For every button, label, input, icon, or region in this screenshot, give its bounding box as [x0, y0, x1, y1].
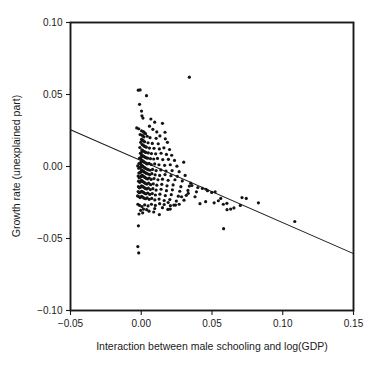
data-point	[186, 189, 189, 192]
data-point	[160, 183, 163, 186]
data-point	[169, 204, 172, 207]
data-point	[293, 220, 296, 223]
x-tick-label: 0.00	[132, 318, 152, 329]
data-point	[170, 193, 173, 196]
data-point	[161, 206, 164, 209]
data-point	[142, 135, 145, 138]
data-point	[225, 202, 228, 205]
data-point	[180, 195, 183, 198]
data-point	[155, 137, 158, 140]
data-point	[175, 199, 178, 202]
data-point	[137, 127, 140, 130]
data-point	[182, 161, 185, 164]
data-point	[137, 224, 140, 227]
data-point	[195, 190, 198, 193]
data-point	[158, 147, 161, 150]
data-point	[145, 94, 148, 97]
data-point	[167, 158, 170, 161]
data-point	[173, 178, 176, 181]
data-point	[147, 210, 150, 213]
data-point	[152, 182, 155, 185]
data-point	[150, 152, 153, 155]
data-point	[137, 174, 140, 177]
data-point	[155, 130, 158, 133]
data-point	[146, 204, 149, 207]
data-point	[217, 199, 220, 202]
y-tick-label: 0.05	[43, 89, 63, 100]
data-point	[141, 211, 144, 214]
data-point	[157, 163, 160, 166]
data-point	[152, 157, 155, 160]
data-point	[163, 164, 166, 167]
data-point	[157, 197, 160, 200]
data-point	[137, 212, 140, 215]
data-point	[151, 142, 154, 145]
data-point	[168, 198, 171, 201]
data-point	[143, 203, 146, 206]
data-point	[158, 174, 161, 177]
data-point	[154, 152, 157, 155]
data-point	[184, 174, 187, 177]
data-point	[164, 137, 167, 140]
data-point	[151, 168, 154, 171]
data-point	[149, 117, 152, 120]
data-point	[155, 189, 158, 192]
data-point	[153, 207, 156, 210]
y-tick-label: −0.10	[37, 305, 63, 316]
data-point	[165, 184, 168, 187]
data-point	[145, 146, 148, 149]
data-point	[150, 178, 153, 181]
data-point	[232, 206, 235, 209]
data-point	[161, 122, 164, 125]
x-tick-label: −0.05	[58, 318, 84, 329]
data-point	[150, 197, 153, 200]
data-point	[137, 185, 140, 188]
data-point	[181, 179, 184, 182]
data-point	[158, 134, 161, 137]
data-point	[173, 159, 176, 162]
data-point	[165, 153, 168, 156]
data-point	[229, 208, 232, 211]
data-point	[167, 179, 170, 182]
data-point	[163, 199, 166, 202]
data-point	[156, 157, 159, 160]
data-point	[174, 203, 177, 206]
data-point	[155, 169, 158, 172]
data-point	[149, 157, 152, 160]
data-point	[158, 202, 161, 205]
data-point	[152, 210, 155, 213]
data-point	[153, 198, 156, 201]
data-point	[168, 148, 171, 151]
data-point	[164, 194, 167, 197]
data-point	[222, 203, 225, 206]
scatter-plot-figure: −0.050.000.050.100.15 −0.10−0.050.000.05…	[0, 0, 375, 367]
data-point	[143, 140, 146, 143]
data-point	[163, 203, 166, 206]
data-point	[136, 203, 139, 206]
data-point	[167, 201, 170, 204]
data-point	[178, 203, 181, 206]
x-axis-title: Interaction between male schooling and l…	[96, 340, 328, 352]
data-point	[137, 251, 140, 254]
data-point	[150, 203, 153, 206]
data-point	[175, 165, 178, 168]
data-point	[147, 151, 150, 154]
data-point	[158, 193, 161, 196]
data-point	[153, 121, 156, 124]
data-point	[141, 117, 144, 120]
data-point	[150, 172, 153, 175]
data-point	[225, 208, 228, 211]
data-point	[151, 128, 154, 131]
data-point	[137, 190, 140, 193]
y-tick-label: 0.10	[43, 17, 63, 28]
data-point	[146, 141, 149, 144]
data-point	[139, 209, 142, 212]
data-point	[213, 201, 216, 204]
data-point	[140, 109, 143, 112]
data-point	[163, 173, 166, 176]
data-point	[136, 245, 139, 248]
data-point	[154, 173, 157, 176]
data-point	[257, 201, 260, 204]
data-point	[179, 185, 182, 188]
x-tick-label: 0.15	[344, 318, 364, 329]
